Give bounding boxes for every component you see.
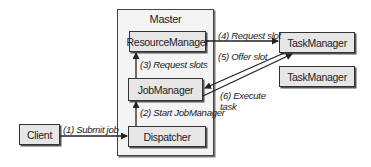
label-request-slots: (3) Request slots bbox=[140, 59, 207, 70]
label-submit-job: (1) Submit job bbox=[63, 124, 119, 135]
label-request-slot: (4) Request slot bbox=[218, 30, 281, 41]
edges-layer bbox=[0, 0, 371, 167]
label-execute-task-line2: task bbox=[220, 101, 236, 112]
label-offer-slot: (5) Offer slot bbox=[218, 51, 267, 62]
label-execute-task-line1: (6) Execute bbox=[220, 90, 266, 101]
label-start-jobmanager: (2) Start JobManager bbox=[140, 107, 225, 118]
